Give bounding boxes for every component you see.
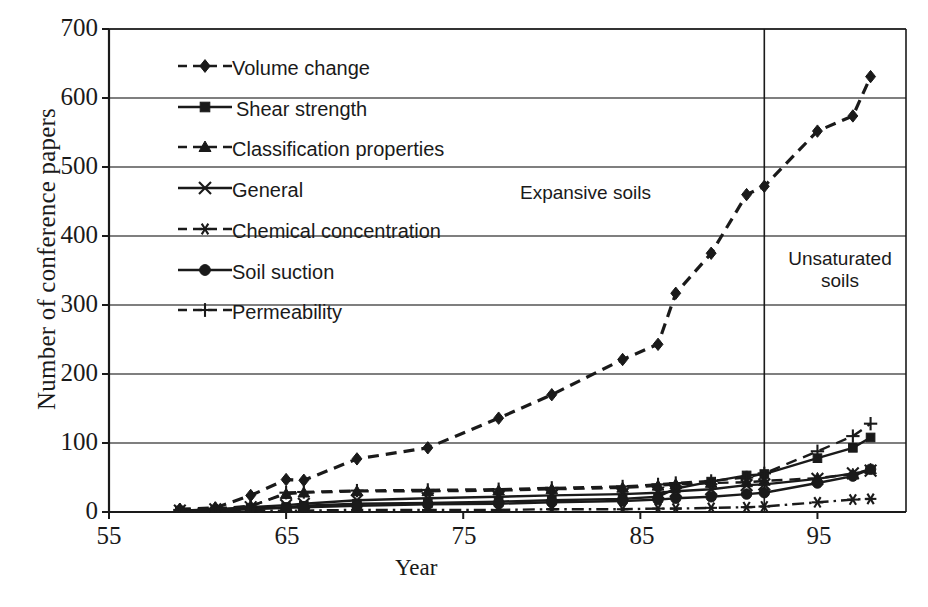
data-point-marker <box>848 110 858 122</box>
y-tick-label-300: 300 <box>28 290 98 318</box>
y-tick-label-200: 200 <box>28 359 98 387</box>
y-tick-label-700: 700 <box>28 14 98 42</box>
legend-label-volume-change: Volume change <box>232 57 370 80</box>
chart-figure: Number of conference papers Year 700 600… <box>0 0 928 607</box>
legend-glyph-volume-change <box>178 60 232 73</box>
data-point-marker <box>741 489 751 499</box>
legend-label-soil-suction: Soil suction <box>232 261 334 284</box>
legend-label-classification-properties: Classification properties <box>232 138 444 161</box>
data-point-marker <box>494 412 504 424</box>
region-label-expansive: Expansive soils <box>520 182 651 204</box>
legend-label-general: General <box>232 179 303 202</box>
data-point-marker <box>299 502 309 512</box>
y-tick-label-500: 500 <box>28 152 98 180</box>
data-point-marker <box>299 474 309 486</box>
y-tick-label-0: 0 <box>28 497 98 525</box>
legend-marker-icon <box>200 265 211 276</box>
conference-papers-line-chart <box>0 0 928 607</box>
region-label-unsaturated-line1: Unsaturated <box>788 248 892 269</box>
x-tick-label-95: 95 <box>789 522 849 550</box>
data-point-marker <box>671 287 681 299</box>
data-point-marker <box>706 492 716 502</box>
x-tick-label-65: 65 <box>257 522 317 550</box>
data-point-marker <box>423 499 433 509</box>
data-point-marker <box>352 453 362 465</box>
legend-marker-icon <box>200 60 210 73</box>
x-tick-label-85: 85 <box>612 522 672 550</box>
data-point-marker <box>759 487 769 497</box>
gridlines-group <box>109 29 906 443</box>
data-point-marker <box>618 353 628 365</box>
data-point-marker <box>493 499 503 509</box>
legend-label-chemical-concentration: Chemical concentration <box>232 220 441 243</box>
data-point-marker <box>866 433 875 442</box>
data-point-marker <box>848 471 858 481</box>
y-tick-label-400: 400 <box>28 221 98 249</box>
legend-glyph-shear-strength <box>178 102 232 112</box>
data-point-marker <box>617 496 627 506</box>
data-point-marker <box>281 473 291 485</box>
y-tick-label-100: 100 <box>28 428 98 456</box>
data-point-marker <box>671 493 681 503</box>
region-label-unsaturated-line2: soils <box>821 270 859 291</box>
data-point-marker <box>865 464 875 474</box>
data-point-marker <box>812 478 822 488</box>
legend-glyph-soil-suction <box>178 265 232 276</box>
data-point-marker <box>866 70 876 82</box>
legend-marker-icon <box>200 102 210 112</box>
legend-label-permeability: Permeability <box>232 301 342 324</box>
x-tick-label-75: 75 <box>434 522 494 550</box>
legend-label-shear-strength: Shear strength <box>236 98 367 121</box>
data-point-marker <box>653 494 663 504</box>
x-tick-label-55: 55 <box>79 522 139 550</box>
data-point-marker <box>742 188 752 200</box>
legend-glyph-classification-properties <box>178 141 232 152</box>
region-label-unsaturated: Unsaturatedsoils <box>781 248 899 293</box>
data-point-marker <box>281 503 291 513</box>
legend-glyph-general <box>178 182 232 194</box>
x-axis-title: Year <box>395 555 437 581</box>
data-point-marker <box>653 338 663 350</box>
y-tick-label-600: 600 <box>28 83 98 111</box>
legend-glyph-chemical-concentration <box>178 224 232 235</box>
data-point-marker <box>352 501 362 511</box>
data-point-marker <box>547 497 557 507</box>
data-point-marker <box>849 444 858 453</box>
data-point-marker <box>547 389 557 401</box>
